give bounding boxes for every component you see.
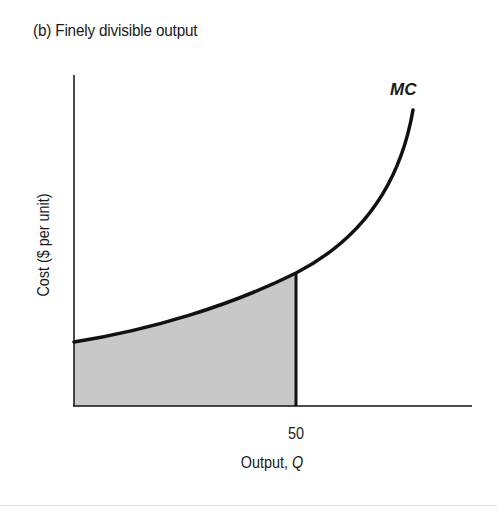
x-axis-label-text: Output, bbox=[241, 454, 292, 471]
y-axis-label: Cost ($ per unit) bbox=[35, 193, 53, 296]
x-tick-50: 50 bbox=[288, 425, 304, 443]
x-axis-label: Output, Q bbox=[241, 454, 303, 472]
mc-curve-label: MC bbox=[390, 80, 416, 100]
shaded-area bbox=[74, 273, 296, 406]
bottom-divider bbox=[0, 505, 497, 506]
x-axis-label-var: Q bbox=[292, 454, 303, 471]
chart-plot bbox=[0, 0, 497, 515]
